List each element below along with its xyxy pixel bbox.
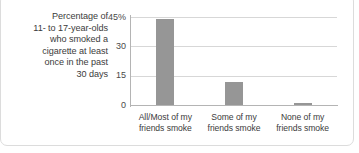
bar-chart-figure: Percentage of 11- to 17-year-olds who sm… (0, 0, 359, 153)
caption-line: cigarette at least (4, 46, 108, 58)
x-axis-line (130, 105, 338, 106)
caption-line: once in the past (4, 57, 108, 69)
x-axis-category-line: friends smoke (268, 123, 337, 134)
bar (156, 19, 174, 105)
x-axis-category-line: Some of my (200, 112, 269, 123)
x-axis-category-line: All/Most of my (131, 112, 200, 123)
x-axis-category-label: All/Most of my friends smoke (131, 112, 200, 134)
caption-line: 11- to 17-year-olds (4, 23, 108, 35)
caption-line: 30 days (4, 69, 108, 81)
y-axis-tick-label: 30 (98, 42, 126, 51)
x-axis-category-line: None of my (268, 112, 337, 123)
y-axis-tick-label: 0 (98, 101, 126, 110)
y-axis-tick-label: 45% (98, 13, 126, 22)
plot-area (131, 17, 337, 105)
y-axis-tick-label: 15 (98, 71, 126, 80)
x-axis-labels: All/Most of my friends smoke Some of my … (131, 112, 337, 142)
caption-line: who smoked a (4, 34, 108, 46)
x-axis-category-line: friends smoke (200, 123, 269, 134)
x-axis-category-line: friends smoke (131, 123, 200, 134)
caption-line: Percentage of (4, 11, 108, 23)
x-axis-category-label: Some of my friends smoke (200, 112, 269, 134)
x-axis-category-label: None of my friends smoke (268, 112, 337, 134)
chart-caption: Percentage of 11- to 17-year-olds who sm… (4, 11, 108, 81)
bar (294, 103, 312, 105)
bar (225, 82, 243, 105)
